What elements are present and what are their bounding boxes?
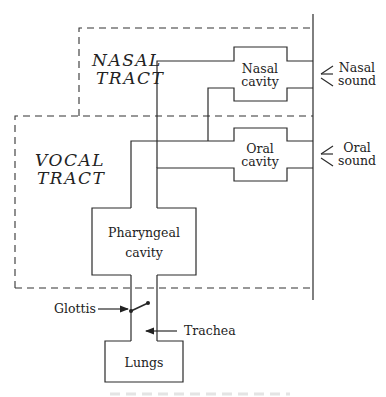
trachea-label: Trachea	[184, 323, 236, 338]
oral-sound-waves-icon	[321, 146, 333, 166]
nasal-cavity-shape	[157, 47, 313, 168]
glottis-label: Glottis	[54, 301, 96, 316]
vocal-tract-label-line1: VOCAL	[35, 150, 105, 170]
oral-cavity-label-line2: cavity	[241, 154, 280, 169]
oral-sound-label-line2: sound	[338, 153, 376, 168]
glottis-switch-icon	[129, 301, 150, 313]
nasal-cavity-label-line2: cavity	[241, 74, 280, 89]
vocal-tract-diagram: NASAL TRACT VOCAL TRACT Nasal cavity Ora…	[0, 0, 386, 397]
pharyngeal-cavity-shape	[92, 208, 196, 275]
lungs-label: Lungs	[125, 355, 164, 370]
oral-cavity-shape	[131, 128, 313, 208]
pharyngeal-cavity-label-line1: Pharyngeal	[108, 225, 180, 240]
nasal-tract-label-line1: NASAL	[91, 50, 162, 70]
nasal-tract-label-line2: TRACT	[96, 68, 164, 88]
nasal-sound-waves-icon	[321, 66, 333, 86]
vocal-tract-label-line2: TRACT	[37, 168, 105, 188]
pharyngeal-cavity-label-line2: cavity	[125, 245, 164, 260]
nasal-sound-label-line2: sound	[338, 73, 376, 88]
